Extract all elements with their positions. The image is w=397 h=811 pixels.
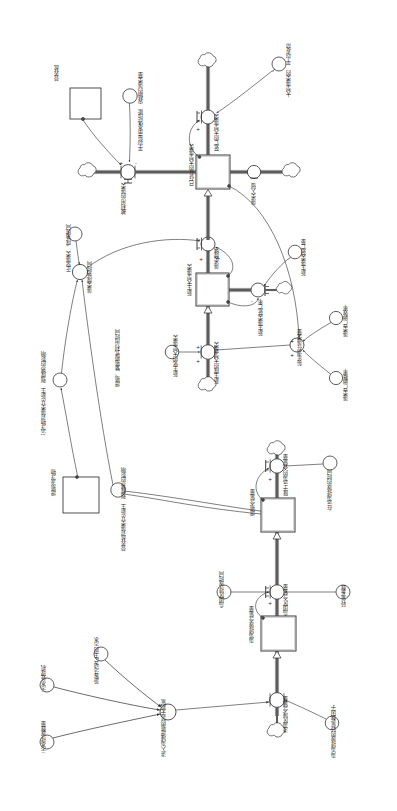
polarity-sign: +	[119, 160, 123, 166]
aux-label-n-coefficient: 转氮系数	[340, 586, 346, 607]
flow-label-nitrogen-to-sea: 降于远海的含氮量	[282, 455, 288, 496]
polarity-sign: +	[216, 255, 220, 261]
aux-label-island-discharge-time: 岛国区排放时间	[218, 572, 224, 608]
polarity-sign: +	[268, 600, 272, 606]
aux-label-normal-maturity-time: 正常藻类 成熟时间	[65, 225, 71, 272]
polarity-sign: +	[199, 256, 203, 262]
flow-label-newborn-generated: 新生成的大型藻类	[213, 343, 219, 384]
flow-label-algae-maturity-time: 藻类成熟时间	[86, 262, 92, 293]
stock-nitrogen-proliferation-box	[261, 498, 295, 532]
flow-label-island-discharge: 岛国区含氮量	[282, 585, 288, 616]
stock-label-island-nitrogen: 海海排放含氮量	[248, 607, 254, 643]
polarity-sign: +	[290, 338, 294, 344]
stock-label-new-macroalgae: 新生大型藻类	[186, 265, 192, 296]
aux-label-nutrient-effect: 营养盐对藻类从新生 到成熟的影响	[120, 468, 126, 551]
cloud-sink-right	[282, 163, 300, 177]
diagram-vector-layer	[0, 0, 397, 811]
stock-label-nutrient-salt: 营养盐	[53, 66, 59, 81]
stock-label-suspended-matter: 增殖流浮物	[50, 470, 56, 496]
stock-nutrient-salt-box	[70, 88, 101, 119]
polarity-sign: +	[158, 702, 162, 708]
flow-label-utilized-algae: 被利用的藻类	[120, 184, 126, 215]
stock-label-existing-macroalgae: 已存在的大型藻类	[188, 145, 194, 186]
flow-label-island-area-n: 浅海区域含氮量	[282, 697, 288, 733]
aux-label-tourist-sewage: 游客活动产生的污水	[93, 638, 99, 684]
cloud-source-left	[78, 163, 96, 177]
cloud-sink-midright	[276, 281, 292, 293]
aux-label-suspended-effect: 沉浮物对藻类从新生 到成熟的影响	[40, 352, 46, 435]
aux-label-island-n-factor: 海海排放的转氮数因子	[330, 706, 336, 758]
flow-label-algae-invasion: 藻类入侵	[250, 184, 256, 205]
polarity-sign: -	[135, 160, 137, 166]
stock-label-nitrogen-proliferation: 增殖含氮量	[249, 490, 255, 516]
polarity-sign: +	[196, 344, 200, 350]
aux-label-spawn-efficiency: 藻类产卵效率	[342, 306, 348, 337]
aux-label-breed-use-time: 增殖、繁殖模式利用时间	[114, 330, 120, 387]
aux-label-spawn-rate: 藻类产卵概率	[342, 370, 348, 401]
aux-label-sewage-treatment: 污水处理机	[40, 666, 46, 692]
cloud-sink-top	[198, 53, 216, 67]
polarity-sign: +	[196, 358, 200, 364]
cloud-sink-nitrogen	[267, 441, 285, 455]
polarity-sign: +	[268, 476, 272, 482]
aux-label-avg-lifespan: 大型藻类的 平均寿命	[285, 44, 291, 97]
flow-label-dead-macroalgae: 死亡的大型藻类	[213, 115, 219, 151]
aux-label-sewage-discharge: 污水排放数量	[40, 722, 46, 753]
stock-existing-macroalgae-box	[196, 155, 230, 189]
aux-label-newborn-mortality: 新生藻类死亡量	[300, 240, 306, 276]
flow-label-newborn-death-rate: 新生藻类死亡率	[257, 300, 263, 336]
polarity-sign: -	[251, 298, 253, 304]
aux-label-annual-potential: 每年潜在藻类量	[296, 330, 302, 366]
polarity-sign: +	[196, 126, 200, 132]
polarity-sign: +	[290, 352, 294, 358]
aux-label-newborn-source: 新生化的大型藻类	[172, 336, 178, 377]
flow-label-total-sewage-in: 进入海域增殖的总无机氮	[160, 700, 166, 757]
aux-label-far-sea-time: 在远海排放的时间	[326, 470, 332, 511]
stock-suspended-matter-box	[63, 477, 99, 513]
aux-label-water-capacity: 平均每亩水体所能 容纳的藻类量	[137, 73, 143, 151]
stock-new-macroalgae-box	[196, 273, 229, 306]
diagram-canvas: 营养盐 已存在的大型藻类 新生大型藻类 增殖流浮物 增殖含氮量 海海排放含氮量 …	[0, 0, 397, 811]
stock-island-nitrogen-box	[261, 616, 296, 651]
